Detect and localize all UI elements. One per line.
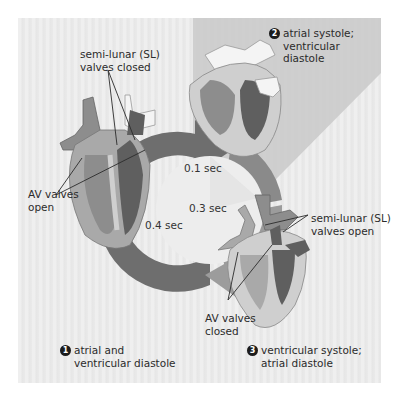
stage-1-number-badge: 1 [60, 345, 71, 356]
stage-2-number-badge: 2 [269, 28, 280, 39]
timing-0-4-sec: 0.4 sec [145, 219, 183, 231]
stage-1-label: 1atrial and ventricular diastole [60, 344, 176, 369]
timing-0-3-sec: 0.3 sec [189, 202, 227, 214]
label-sl-valves-closed: semi-lunar (SL) valves closed [80, 48, 160, 73]
label-sl-valves-open: semi-lunar (SL) valves open [311, 212, 391, 237]
timing-0-1-sec: 0.1 sec [184, 162, 222, 174]
stage-1-text: atrial and ventricular diastole [74, 344, 176, 369]
stage-2-text: atrial systole; ventricular diastole [283, 27, 354, 65]
label-av-valves-open: AV valves open [28, 188, 79, 213]
stage-3-text: ventricular systole; atrial diastole [261, 344, 362, 369]
stage-2-label: 2atrial systole; ventricular diastole [269, 27, 354, 65]
stage-3-label: 3ventricular systole; atrial diastole [247, 344, 362, 369]
label-av-valves-closed: AV valves closed [205, 312, 256, 337]
heart-stage1-illustration [60, 95, 155, 248]
stage-3-number-badge: 3 [247, 345, 258, 356]
